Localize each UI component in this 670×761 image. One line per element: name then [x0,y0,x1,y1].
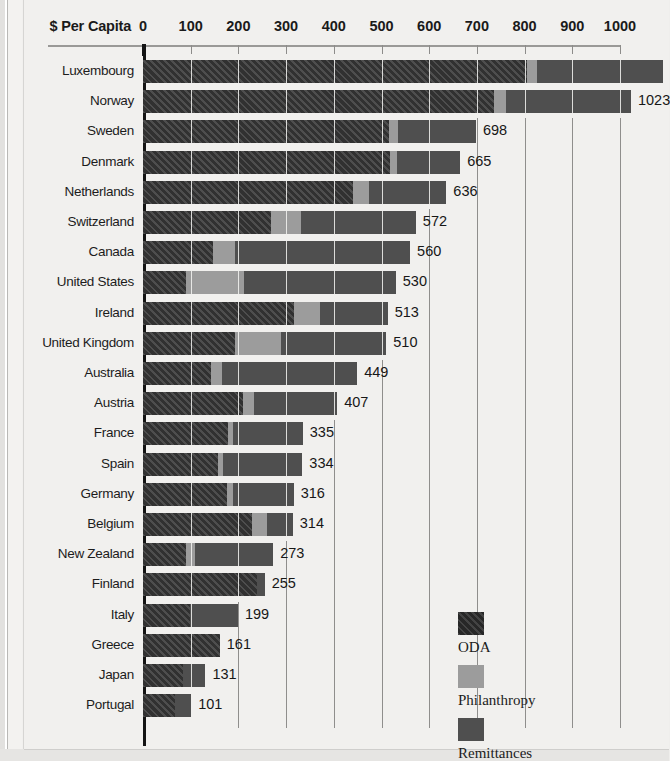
bar-value-label: 572 [423,213,447,229]
bar-segment-oda [143,543,186,566]
bar-segment-phil [527,60,537,83]
bar-gridtick [286,241,287,264]
bar-segment-rem [190,604,238,627]
x-tick-mark-600 [429,45,430,54]
bar-row[interactable]: Austria407 [0,388,669,418]
bar-gridtick [191,90,192,113]
bar-gridtick [191,332,192,355]
bar-segment-oda [143,90,494,113]
bar-gridtick [191,151,192,174]
bar-value-label: 199 [245,606,269,622]
bar-row[interactable]: France335 [0,418,669,448]
bar-gridtick [286,302,287,325]
row-label-belgium: Belgium [24,516,134,531]
bar-row[interactable]: Canada560 [0,237,669,267]
bar-segment-oda [143,453,218,476]
bar-segment-oda [143,634,220,657]
bar-row[interactable]: Switzerland572 [0,207,669,237]
x-tick-mark-500 [382,45,383,54]
bar-segment-phil [252,513,268,536]
bar-gridtick [334,211,335,234]
x-tick-label-300: 300 [274,18,298,34]
bar-segment-oda [143,120,389,143]
stacked-bar [143,664,205,687]
x-axis-title: $ Per Capita [50,18,131,34]
bar-row[interactable]: Denmark665 [0,147,669,177]
legend-label-remittances: Remittances [458,745,532,761]
bar-row[interactable]: Sweden698 [0,116,669,146]
bar-row[interactable]: United Kingdom510 [0,328,669,358]
row-label-spain: Spain [24,456,134,471]
bar-row[interactable]: Finland255 [0,569,669,599]
bar-gridtick [286,181,287,204]
legend-item-oda[interactable]: ODA [458,612,598,660]
bar-value-label: 665 [467,153,491,169]
bar-gridtick [191,453,192,476]
x-tick-label-200: 200 [226,18,250,34]
bar-gridtick [334,302,335,325]
bar-gridtick [191,392,192,415]
x-tick-mark-400 [334,45,335,54]
stacked-bar [143,513,293,536]
bar-value-label: 510 [393,334,417,350]
bar-segment-rem [537,60,663,83]
row-label-finland: Finland [24,576,134,591]
bar-value-label: 131 [212,666,236,682]
bar-gridtick [238,573,239,596]
bar-row[interactable]: Ireland513 [0,298,669,328]
bar-row[interactable]: Spain334 [0,449,669,479]
legend-item-philanthropy[interactable]: Philanthropy [458,665,598,713]
bar-gridtick [191,60,192,83]
row-label-luxembourg: Luxembourg [24,63,134,78]
bar-gridtick [334,151,335,174]
bar-row[interactable]: Netherlands636 [0,177,669,207]
bar-gridtick [429,120,430,143]
bar-row[interactable]: United States530 [0,267,669,297]
bar-row[interactable]: Australia449 [0,358,669,388]
bar-gridtick [191,241,192,264]
bar-gridtick [334,181,335,204]
bar-gridtick [429,181,430,204]
bar-gridtick [238,90,239,113]
bar-gridtick [286,120,287,143]
bar-segment-rem [320,302,388,325]
bar-gridtick [429,90,430,113]
bar-value-label: 273 [280,545,304,561]
bar-row[interactable]: New Zealand273 [0,539,669,569]
bar-row[interactable]: Belgium314 [0,509,669,539]
bar-segment-rem [175,694,191,717]
bar-segment-rem [222,362,357,385]
bar-segment-oda [143,664,183,687]
row-label-denmark: Denmark [24,154,134,169]
legend-item-remittances[interactable]: Remittances [458,718,598,761]
bar-row[interactable]: Luxembourg [0,56,669,86]
bar-segment-rem [254,392,337,415]
bar-segment-oda [143,241,213,264]
bar-row[interactable]: Germany316 [0,479,669,509]
bar-gridtick [191,604,192,627]
bar-segment-rem [267,513,292,536]
bar-value-label: 316 [301,485,325,501]
stacked-bar [143,332,386,355]
x-tick-label-700: 700 [465,18,489,34]
bar-segment-rem [195,543,273,566]
bar-segment-oda [143,483,227,506]
bar-row[interactable]: Norway1023 [0,86,669,116]
bar-gridtick [238,513,239,536]
bar-segment-oda [143,302,294,325]
bar-gridtick [477,90,478,113]
bar-gridtick [334,120,335,143]
bar-gridtick [191,422,192,445]
x-tick-mark-0 [142,44,145,56]
row-label-portugal: Portugal [24,697,134,712]
bar-value-label: 335 [310,424,334,440]
bar-segment-phil [389,120,398,143]
bar-gridtick [382,120,383,143]
bar-gridtick [191,302,192,325]
bar-gridtick [572,90,573,113]
row-label-sweden: Sweden [24,123,134,138]
bar-segment-oda [143,151,390,174]
bar-gridtick [286,90,287,113]
stacked-bar [143,392,337,415]
